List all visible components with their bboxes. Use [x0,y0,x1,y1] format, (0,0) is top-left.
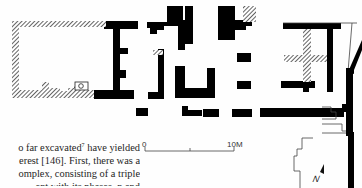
scale-start-label: 0 [142,141,146,149]
hatched-block [100,21,106,27]
scale-end-label: 10M [227,141,243,149]
text-line: erest [146]. First, there was a [0,154,140,167]
text-line: ent with its phases. n and [0,180,140,186]
scale-bar [145,147,234,151]
small-feature [75,82,88,90]
west-hatched-enclosure [12,21,106,98]
hatched-block [243,6,256,22]
book-page: 0 10M N o far excavated7 have yielded er… [0,0,362,188]
north-arrow-icon [320,164,324,174]
hatched-cross [284,29,327,82]
east-walls [342,40,362,188]
text-line: o far excavated7 have yielded [0,141,140,154]
body-text-column: o far excavated7 have yielded erest [146… [0,141,140,186]
text-line: omplex, consisting of a triple [0,167,140,180]
hatched-block [153,50,163,55]
